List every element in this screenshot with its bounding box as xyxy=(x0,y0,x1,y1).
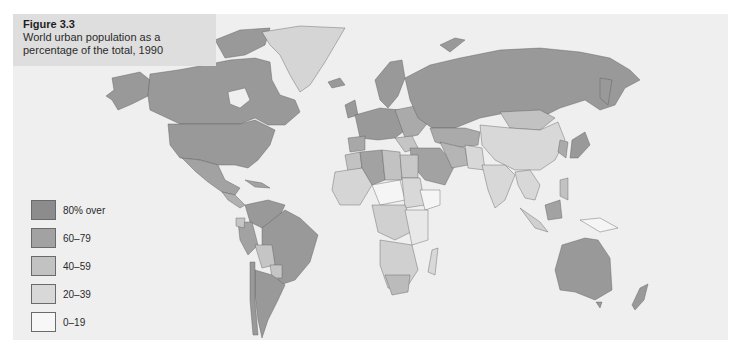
region-libya xyxy=(382,150,402,180)
legend-swatch xyxy=(31,228,56,248)
legend-label: 20–39 xyxy=(63,289,91,300)
region-new-zealand xyxy=(632,284,648,310)
region-madagascar xyxy=(428,248,438,275)
region-novaya-zemlya xyxy=(440,38,465,52)
region-new-guinea xyxy=(580,218,618,232)
legend-item: 60–79 xyxy=(31,224,105,252)
region-cuba xyxy=(245,180,270,188)
legend-swatch xyxy=(31,284,56,304)
region-south-africa xyxy=(385,275,410,295)
region-bolivia xyxy=(255,245,275,268)
region-japan xyxy=(570,132,590,158)
figure-caption: World urban population as a percentage o… xyxy=(23,31,213,57)
region-canada-islands xyxy=(215,28,270,58)
region-egypt xyxy=(400,155,418,178)
region-iberia xyxy=(348,136,365,152)
legend-swatch xyxy=(31,312,56,332)
region-central-asia xyxy=(430,128,480,148)
region-canada xyxy=(148,58,300,125)
legend-label: 0–19 xyxy=(63,317,85,328)
region-china xyxy=(480,122,565,170)
region-tasmania xyxy=(596,302,602,308)
figure-label: Figure 3.3 xyxy=(23,18,216,31)
legend-label: 80% over xyxy=(63,205,105,216)
region-borneo xyxy=(545,200,562,220)
legend-item: 80% over xyxy=(31,196,105,224)
region-iceland xyxy=(328,78,345,88)
region-ecuador xyxy=(236,218,245,228)
region-southeast-asia xyxy=(515,170,540,200)
region-australia xyxy=(555,238,612,300)
region-afghanistan-pakistan xyxy=(465,145,485,170)
region-alaska xyxy=(106,72,150,110)
region-india xyxy=(482,165,515,208)
region-scandinavia xyxy=(375,60,405,108)
legend-swatch xyxy=(31,200,56,220)
region-sahel xyxy=(372,180,405,205)
region-east-africa xyxy=(405,210,428,245)
legend-swatch xyxy=(31,256,56,276)
legend-item: 40–59 xyxy=(31,252,105,280)
legend-item: 0–19 xyxy=(31,308,105,336)
legend-item: 20–39 xyxy=(31,280,105,308)
region-philippines xyxy=(560,178,568,200)
legend-label: 60–79 xyxy=(63,233,91,244)
legend: 80% over 60–79 40–59 20–39 0–19 xyxy=(31,196,105,336)
region-sumatra xyxy=(520,208,548,232)
region-korea xyxy=(558,140,568,158)
region-ethiopia xyxy=(420,190,440,210)
region-usa xyxy=(168,120,275,168)
legend-label: 40–59 xyxy=(63,261,91,272)
figure-title-box: Figure 3.3 World urban population as a p… xyxy=(13,14,216,66)
